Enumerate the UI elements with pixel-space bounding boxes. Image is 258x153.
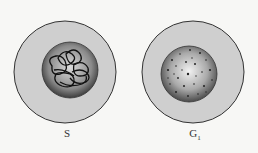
cell-cycle-diagram <box>0 0 258 153</box>
g1-phase-label: G1 <box>180 127 210 142</box>
s-phase-cell <box>14 21 116 123</box>
g1-phase-cell <box>142 21 244 123</box>
s-phase-label: S <box>52 127 82 139</box>
